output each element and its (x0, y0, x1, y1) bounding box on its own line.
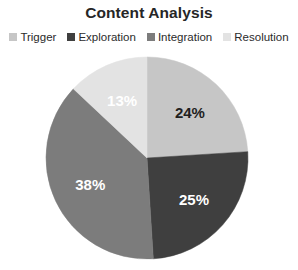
pie-svg: 24%25%38%13% (0, 0, 298, 270)
pie-plot-area: 24%25%38%13% (0, 0, 298, 270)
pie-slice-value-label: 38% (75, 176, 105, 193)
pie-slices-group (46, 57, 248, 259)
pie-slice-value-label: 25% (179, 191, 209, 208)
pie-slice-value-label: 13% (107, 92, 137, 109)
pie-chart-figure: Content Analysis Trigger Exploration Int… (0, 0, 298, 270)
pie-slice-value-label: 24% (175, 104, 205, 121)
